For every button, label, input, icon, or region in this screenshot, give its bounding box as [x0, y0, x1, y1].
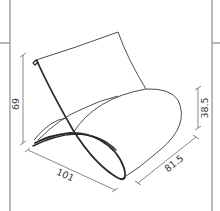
depth-label: 81.5	[162, 152, 185, 174]
chair-diagram: 69 101 81.5 38.5	[0, 0, 220, 211]
frame	[0, 0, 220, 211]
dimension-height: 69	[10, 53, 26, 145]
dimension-seat-height: 38.5	[195, 86, 210, 130]
length-label: 101	[55, 166, 76, 183]
seat-height-label: 38.5	[199, 97, 210, 118]
height-label: 69	[10, 98, 21, 110]
dimension-length: 101	[25, 148, 118, 192]
chair-outline	[33, 32, 181, 180]
dimension-depth: 81.5	[135, 135, 199, 185]
